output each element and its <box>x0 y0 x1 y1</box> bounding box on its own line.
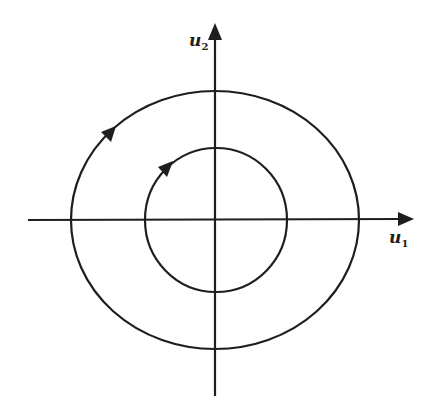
phase-portrait-diagram: u2 u1 <box>0 0 433 404</box>
diagram-svg: u2 u1 <box>0 0 433 404</box>
u1-axis-label: u1 <box>389 227 408 249</box>
u2-axis-label: u2 <box>189 30 208 52</box>
u1-axis-arrowhead-icon <box>398 212 414 226</box>
u2-axis-arrowhead-icon <box>208 23 222 40</box>
